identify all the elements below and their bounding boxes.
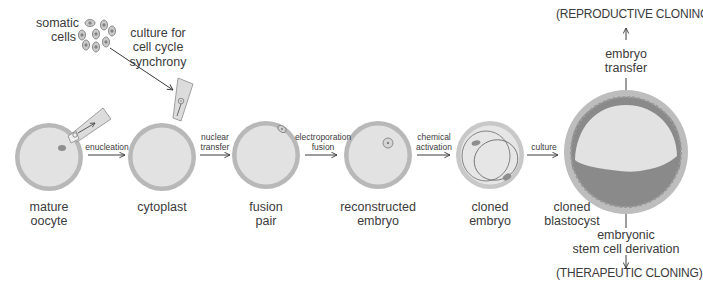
fusion-pair-cell (232, 121, 300, 189)
stage-label-cloned-blastocyst: clonedblastocyst (537, 200, 607, 229)
injection-pipette-icon (173, 78, 193, 121)
enucleation-pipette-icon (68, 108, 111, 143)
cloned-embryo-cell (456, 121, 524, 189)
stage-label-cytoplast: cytoplast (127, 200, 197, 214)
step-label-chemical-activation: chemicalactivation (414, 133, 454, 153)
step-label-culture: culture (527, 143, 561, 153)
therapeutic-cloning-label: (THERAPEUTIC CLONING) (556, 267, 696, 281)
step-label-electroporation-fusion: electroporationfusion (294, 133, 352, 153)
step-label-nuclear-transfer: nucleartransfer (196, 133, 234, 153)
step-label-enucleation: enucleation (84, 143, 130, 153)
cloned-blastocyst-cell (564, 90, 688, 214)
reconstructed-embryo-cell (344, 121, 412, 189)
culture-synchrony-label: culture forcell cyclesynchrony (128, 26, 188, 69)
reproductive-cloning-label: (REPRODUCTIVE CLONING) (556, 8, 696, 22)
somatic-cells-icon (79, 20, 116, 53)
embryo-transfer-label: embryotransfer (586, 47, 666, 76)
cytoplast-cell (128, 123, 196, 191)
stem-cell-derivation-label: embryonicstem cell derivation (571, 228, 681, 257)
stage-label-cloned-embryo: clonedembryo (455, 200, 525, 229)
stage-label-fusion-pair: fusionpair (231, 200, 301, 229)
somatic-cells-label: somaticcells (36, 16, 76, 45)
stage-label-mature-oocyte: matureoocyte (14, 200, 84, 229)
stage-label-reconstructed-embryo: reconstructedembryo (338, 200, 418, 229)
